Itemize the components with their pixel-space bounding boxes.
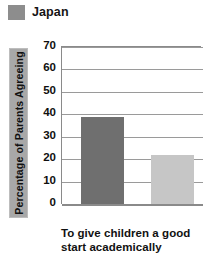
legend-swatch-icon (8, 5, 25, 20)
y-tick-label-30: 30 (43, 130, 56, 142)
y-tick-label-20: 20 (43, 152, 56, 164)
bar-series (62, 47, 201, 204)
y-tick-label-0: 0 (50, 197, 56, 209)
bar-1 (81, 117, 124, 204)
plot-area (61, 46, 201, 204)
x-axis-caption: To give children a good start academical… (61, 226, 197, 255)
gridline-0 (62, 204, 203, 206)
y-axis-title-band: Percentage of Parents Agreeing (9, 48, 28, 218)
y-tick-label-10: 10 (43, 175, 56, 187)
y-tick-label-50: 50 (43, 85, 56, 97)
legend-label-japan: Japan (32, 6, 69, 19)
y-tick-label-70: 70 (43, 40, 56, 52)
y-axis-title: Percentage of Parents Agreeing (13, 51, 25, 214)
y-tick-label-60: 60 (43, 63, 56, 75)
chart-legend: Japan (8, 4, 69, 21)
y-axis-tick-labels: 010203040506070 (33, 46, 56, 222)
bar-2 (151, 155, 194, 204)
y-tick-label-40: 40 (43, 108, 56, 120)
bar-chart: 010203040506070 (33, 46, 201, 222)
